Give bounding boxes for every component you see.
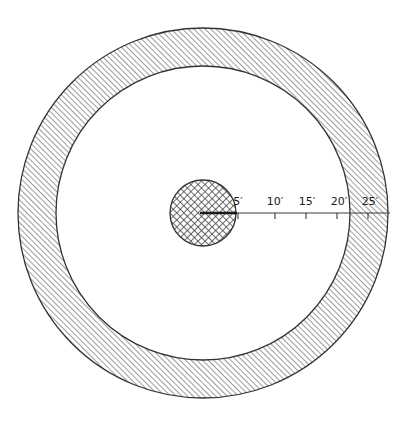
scale-label-5: 5′ xyxy=(233,195,243,208)
scale-label-10: 10′ xyxy=(267,195,284,208)
scale-label-20: 20′ xyxy=(331,195,348,208)
diagram-canvas: 5′ 10′ 15′ 20′ 25′ xyxy=(0,0,404,428)
concentric-circle-diagram: 5′ 10′ 15′ 20′ 25′ xyxy=(0,0,404,428)
scale-label-15: 15′ xyxy=(299,195,316,208)
scale-label-25: 25′ xyxy=(362,195,379,208)
